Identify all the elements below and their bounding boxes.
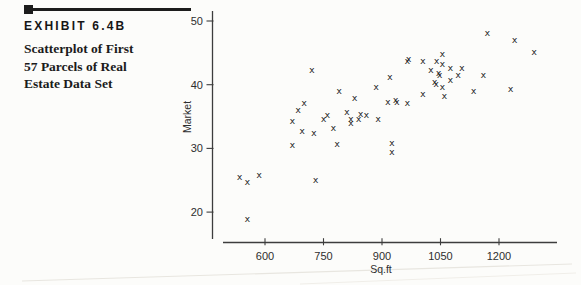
- data-point-marker: x: [442, 90, 448, 101]
- data-point-marker: x: [289, 115, 295, 126]
- y-tick-label: 40: [191, 79, 203, 91]
- data-point-marker: x: [325, 109, 331, 120]
- data-point-marker: x: [387, 71, 393, 82]
- data-point-marker: x: [455, 69, 461, 80]
- y-tick-label: 30: [191, 142, 203, 154]
- data-point-marker: x: [256, 169, 262, 180]
- data-point-marker: x: [356, 113, 362, 124]
- data-point-marker: x: [334, 138, 340, 149]
- scanned-page: EXHIBIT 6.4B Scatterplot of First 57 Par…: [0, 0, 581, 285]
- data-point-marker: x: [531, 46, 537, 57]
- data-point-marker: x: [385, 96, 391, 107]
- data-point-marker: x: [481, 69, 487, 80]
- data-point-marker: x: [420, 55, 426, 66]
- data-point-marker: x: [394, 96, 400, 107]
- data-point-marker: x: [299, 125, 305, 136]
- data-point-marker: x: [336, 85, 342, 96]
- data-point-marker: x: [313, 174, 319, 185]
- data-point-marker: x: [348, 117, 354, 128]
- data-point-marker: x: [295, 104, 301, 115]
- data-point-marker: x: [352, 92, 358, 103]
- data-point-marker: x: [406, 53, 412, 64]
- data-point-marker: x: [309, 64, 315, 75]
- data-point-marker: x: [311, 127, 317, 138]
- data-point-marker: x: [245, 176, 251, 187]
- data-point-marker: x: [484, 27, 490, 38]
- data-point-marker: x: [428, 64, 434, 75]
- data-point-marker: x: [364, 109, 370, 120]
- scan-artifact-line: [300, 273, 576, 284]
- y-tick-label: 50: [191, 15, 203, 27]
- x-tick-label: 1200: [487, 250, 511, 262]
- x-tick-label: 750: [314, 250, 332, 262]
- scan-artifact-line: [22, 264, 572, 281]
- data-point-marker: x: [389, 146, 395, 157]
- data-point-marker: x: [508, 83, 514, 94]
- data-point-marker: x: [373, 81, 379, 92]
- scatterplot: 5040302060075090010501200MarketSq.ftxxxx…: [0, 0, 581, 285]
- data-point-marker: x: [447, 62, 453, 73]
- y-axis-label: Market: [181, 101, 193, 133]
- data-point-marker: x: [471, 85, 477, 96]
- x-tick-label: 900: [373, 250, 391, 262]
- data-point-marker: x: [330, 122, 336, 133]
- data-point-marker: x: [433, 78, 439, 89]
- data-point-marker: x: [245, 213, 251, 224]
- data-point-marker: x: [237, 171, 243, 182]
- data-point-marker: x: [420, 88, 426, 99]
- x-tick-label: 1050: [428, 250, 452, 262]
- data-point-marker: x: [289, 139, 295, 150]
- data-point-marker: x: [447, 74, 453, 85]
- data-point-marker: x: [375, 113, 381, 124]
- x-axis-label: Sq.ft: [370, 263, 392, 275]
- data-point-marker: x: [301, 97, 307, 108]
- y-tick-label: 20: [191, 206, 203, 218]
- x-tick-label: 600: [256, 250, 274, 262]
- data-point-marker: x: [404, 97, 410, 108]
- data-point-marker: x: [512, 34, 518, 45]
